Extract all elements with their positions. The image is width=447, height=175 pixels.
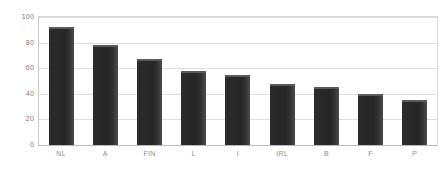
y-tick-label-100: 100 [4, 13, 34, 20]
bar-top-face [358, 94, 383, 96]
bar-slot-l [172, 17, 216, 145]
x-label-b: B [304, 150, 348, 158]
x-label-p: P [393, 150, 437, 158]
y-tick-label-0: 0 [4, 141, 34, 148]
x-label-nl: NL [39, 150, 83, 158]
bar-fin [137, 59, 162, 145]
bar-top-face [314, 87, 339, 89]
bar-irl [270, 84, 295, 145]
bar-top-face [181, 71, 206, 73]
x-axis-labels: NL A FIN L I IRL B F P [39, 150, 437, 158]
bar-top-face [270, 84, 295, 86]
bar-slot-b [304, 17, 348, 145]
bar-a [93, 45, 118, 145]
bar-i [225, 75, 250, 145]
bar-chart: 100 80 60 40 20 0 NL A FIN L I IRL B F P [0, 0, 447, 175]
y-tick-label-40: 40 [4, 90, 34, 97]
x-label-i: I [216, 150, 260, 158]
bar-slot-i [216, 17, 260, 145]
bar-slot-p [393, 17, 437, 145]
y-tick-label-20: 20 [4, 115, 34, 122]
x-label-fin: FIN [128, 150, 172, 158]
y-tick-label-60: 60 [4, 64, 34, 71]
bar-p [402, 100, 427, 145]
bar-l [181, 71, 206, 145]
x-label-irl: IRL [260, 150, 304, 158]
x-label-f: F [349, 150, 393, 158]
bar-slot-fin [128, 17, 172, 145]
bar-top-face [402, 100, 427, 102]
x-label-l: L [172, 150, 216, 158]
x-label-a: A [83, 150, 127, 158]
bar-slot-nl [39, 17, 83, 145]
y-tick-label-80: 80 [4, 39, 34, 46]
bar-slot-irl [260, 17, 304, 145]
bar-f [358, 94, 383, 145]
bar-slot-a [83, 17, 127, 145]
bar-slot-f [349, 17, 393, 145]
bar-b [314, 87, 339, 145]
bar-top-face [137, 59, 162, 61]
bar-top-face [49, 27, 74, 29]
bar-top-face [225, 75, 250, 77]
bar-top-face [93, 45, 118, 47]
bar-nl [49, 27, 74, 145]
bars-container [39, 17, 437, 145]
